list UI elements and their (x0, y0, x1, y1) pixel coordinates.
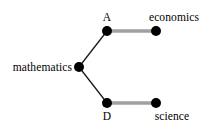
graph-node-A[interactable] (102, 26, 112, 36)
graph-edge-mathematics-D (79, 67, 107, 103)
node-layer (74, 26, 161, 108)
graph-node-label-economics: economics (149, 11, 199, 23)
graph-node-economics[interactable] (151, 26, 161, 36)
edge-layer (79, 31, 156, 103)
graph-diagram: mathematicsAeconomicsDscience (0, 0, 213, 130)
graph-node-label-mathematics: mathematics (13, 61, 72, 73)
graph-node-label-D: D (103, 110, 111, 122)
graph-edge-mathematics-A (79, 31, 107, 67)
graph-node-label-science: science (155, 110, 190, 122)
graph-node-science[interactable] (151, 98, 161, 108)
graph-node-D[interactable] (102, 98, 112, 108)
graph-node-mathematics[interactable] (74, 62, 84, 72)
graph-node-label-A: A (103, 11, 111, 23)
